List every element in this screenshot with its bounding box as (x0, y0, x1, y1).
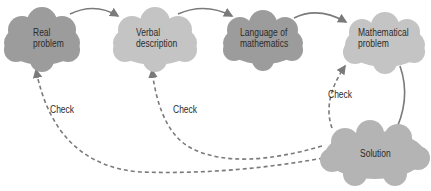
check-label-mathproblem: Check (328, 89, 352, 100)
node-label-line1: Real (33, 27, 64, 38)
node-label-solution: Solution (360, 148, 391, 159)
node-label-line1: Verbal (136, 27, 177, 38)
node-label-line1: Mathematical (358, 27, 409, 38)
node-label-language-of-mathematics: Language of mathematics (240, 27, 288, 49)
arrow-verbal-to-language (178, 8, 232, 16)
node-label-mathematical-problem: Mathematical problem (358, 27, 409, 49)
node-label-line2: mathematics (240, 38, 288, 49)
node-label-line2: problem (33, 38, 64, 49)
node-label-line2: description (136, 38, 177, 49)
arrow-language-to-mathproblem (294, 13, 346, 22)
node-label-real-problem: Real problem (33, 27, 64, 49)
node-label-verbal-description: Verbal description (136, 27, 177, 49)
check-label-real: Check (50, 104, 74, 115)
check-arrow-to-real (36, 70, 323, 172)
node-label-line1: Solution (360, 148, 391, 159)
node-label-line2: problem (358, 38, 409, 49)
arrow-real-to-verbal (70, 8, 118, 16)
check-label-verbal: Check (173, 104, 197, 115)
node-label-line1: Language of (240, 27, 288, 38)
